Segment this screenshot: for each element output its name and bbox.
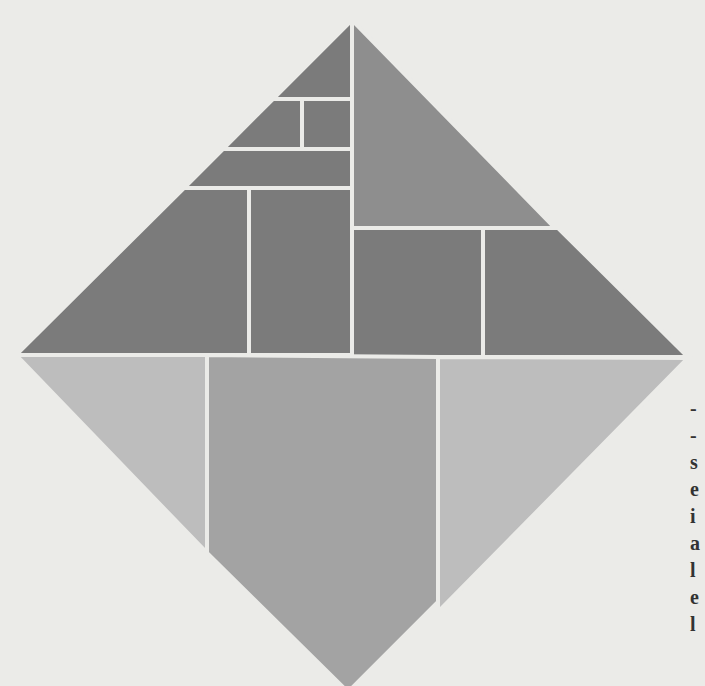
piece-lower-middle [207, 355, 438, 686]
piece-wide-bar [184, 149, 352, 188]
text-fragment: e [690, 476, 705, 503]
piece-small-square [302, 99, 352, 149]
piece-right-square [352, 228, 483, 357]
cropped-margin-text: - - s e i a l e l [690, 395, 705, 638]
text-fragment: - [690, 422, 705, 449]
piece-lower-left-triangle [16, 355, 207, 553]
text-fragment: l [690, 557, 705, 584]
piece-small-left [223, 99, 302, 149]
text-fragment: i [690, 503, 705, 530]
piece-top-left-triangle [273, 20, 352, 99]
text-fragment: a [690, 530, 705, 557]
text-fragment: - [690, 395, 705, 422]
piece-lower-right-triangle [438, 357, 688, 612]
upper-half [16, 20, 688, 357]
piece-tall-rect [249, 188, 352, 355]
text-fragment: e [690, 584, 705, 611]
piece-right-trapezoid [483, 228, 688, 357]
text-fragment: l [690, 611, 705, 638]
text-fragment: s [690, 449, 705, 476]
lower-half [16, 355, 688, 686]
piece-upper-right-triangle [352, 20, 555, 228]
piece-left-trapezoid [16, 188, 249, 355]
